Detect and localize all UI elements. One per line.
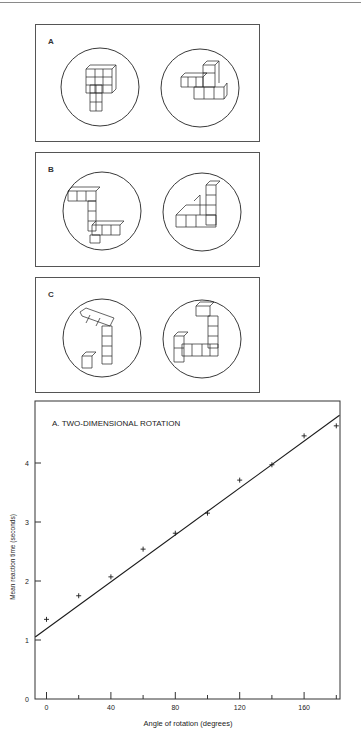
data-point-180 xyxy=(334,423,339,428)
x-tick-label-160: 160 xyxy=(298,704,310,711)
x-tick-label-120: 120 xyxy=(234,704,246,711)
x-tick-label-0: 0 xyxy=(45,704,49,711)
data-point-160 xyxy=(302,433,307,438)
reaction-time-chart: A. TWO-DIMENSIONAL ROTATION Mean reactio… xyxy=(0,0,361,746)
y-tick-label-3: 3 xyxy=(25,519,29,526)
chart-frame xyxy=(35,401,340,699)
data-point-40 xyxy=(108,574,113,579)
x-tick-label-80: 80 xyxy=(171,704,179,711)
y-tick-label-1: 1 xyxy=(25,637,29,644)
x-axis-label: Angle of rotation (degrees) xyxy=(144,719,233,728)
y-tick-label-4: 4 xyxy=(25,460,29,467)
chart-title: A. TWO-DIMENSIONAL ROTATION xyxy=(52,419,180,428)
y-axis-label: Mean reaction time (seconds) xyxy=(9,514,17,600)
fit-line xyxy=(35,415,339,637)
data-point-60 xyxy=(141,547,146,552)
y-tick-label-0: 0 xyxy=(25,696,29,703)
x-tick-label-40: 40 xyxy=(107,704,115,711)
y-tick-label-2: 2 xyxy=(25,578,29,585)
data-point-20 xyxy=(76,593,81,598)
data-point-0 xyxy=(44,617,49,622)
data-point-120 xyxy=(237,478,242,483)
